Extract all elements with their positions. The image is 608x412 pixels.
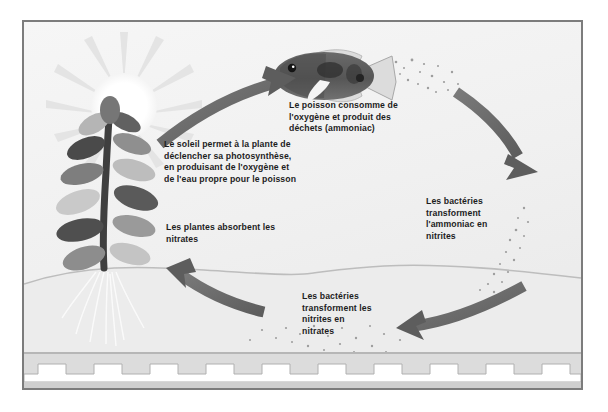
caption-nitrite: Les bactéries transforment les nitrites …	[302, 291, 412, 337]
diagram-frame: Le poisson consomme de l'oxygène et prod…	[22, 20, 583, 390]
caption-fish: Le poisson consomme de l'oxygène et prod…	[289, 100, 449, 135]
substrate-band	[24, 352, 581, 388]
diagram-scene: Le poisson consomme de l'oxygène et prod…	[24, 22, 581, 388]
caption-plants: Les plantes absorbent les nitrates	[166, 222, 306, 245]
caption-ammonia: Les bactéries transforment l'ammoniac en…	[426, 196, 526, 242]
caption-sun: Le soleil permet à la plante de déclench…	[164, 139, 344, 185]
nitrogen-cycle-diagram: Le poisson consomme de l'oxygène et prod…	[0, 0, 608, 412]
